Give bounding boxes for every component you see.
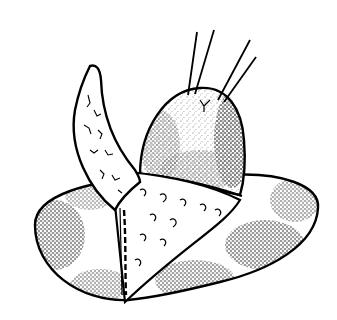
surgical-illustration (0, 0, 337, 320)
